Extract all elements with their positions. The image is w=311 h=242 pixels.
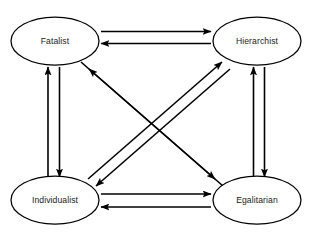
node-egalitarian-label: Egalitarian [236, 195, 278, 205]
edge-hierarchist-to-individualist [96, 69, 230, 186]
cultural-theory-diagram: Fatalist Hierarchist Individualist Egali… [0, 0, 311, 242]
node-egalitarian[interactable]: Egalitarian [213, 176, 301, 224]
node-hierarchist[interactable]: Hierarchist [213, 17, 301, 65]
node-hierarchist-label: Hierarchist [236, 36, 279, 46]
edge-individualist-to-hierarchist [88, 62, 222, 179]
diagram-canvas: Fatalist Hierarchist Individualist Egali… [0, 0, 311, 242]
node-fatalist[interactable]: Fatalist [11, 17, 99, 65]
node-individualist[interactable]: Individualist [11, 176, 99, 224]
node-individualist-label: Individualist [32, 195, 79, 205]
node-fatalist-label: Fatalist [41, 36, 70, 46]
edge-egalitarian-to-fatalist [89, 69, 223, 186]
